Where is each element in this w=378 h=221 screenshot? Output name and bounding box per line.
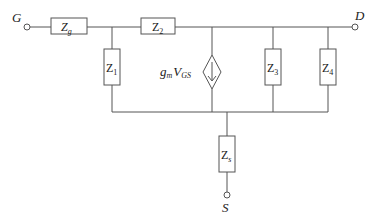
impedance-z1-branch: Z1 [104,27,120,112]
z2-main: Z [152,20,159,34]
z2-sub: 2 [159,27,163,36]
circuit-diagram: G D Zg Z2 Z1 gmVGS [0,0,378,221]
drain-terminal: D [352,8,365,30]
drain-terminal-circle [352,24,358,30]
z1-main: Z [106,61,113,75]
gm-sub: m [167,71,173,80]
source-label: S [222,200,229,215]
source-terminal-circle [224,192,230,198]
zs-sub: s [228,155,231,164]
drain-label: D [354,8,365,23]
gate-terminal: G [12,10,30,30]
z4-sub: 4 [329,68,333,77]
impedance-zg: Zg [51,18,87,36]
zg-sub: g [68,27,72,36]
gate-label: G [12,10,22,25]
impedance-zs-branch: Zs [219,112,235,192]
impedance-z4-branch: Z4 [320,27,336,112]
vgs-sub: GS [181,71,191,80]
z3-sub: 3 [274,68,278,77]
source-terminal: S [222,192,230,215]
dependent-current-source: gmVGS [160,27,221,112]
impedance-z3-branch: Z3 [265,27,281,112]
z3-main: Z [267,61,274,75]
gate-terminal-circle [24,24,30,30]
z4-main: Z [322,61,329,75]
z1-sub: 1 [113,68,117,77]
impedance-z2: Z2 [141,18,175,36]
zs-main: Z [221,148,228,162]
svg-text:gmVGS: gmVGS [160,64,191,80]
